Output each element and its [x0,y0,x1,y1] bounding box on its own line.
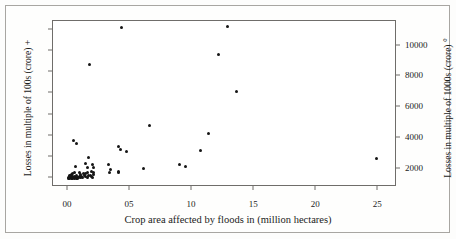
y-axis-right-tick-mark [396,167,400,168]
scatter-point [87,156,90,159]
scatter-point [78,171,81,174]
scatter-point [75,142,78,145]
y-axis-right-tick-label: 6000 [405,102,423,111]
scatter-point [199,149,202,152]
plot-area [52,20,396,186]
scatter-point [76,177,79,180]
x-axis-tick-mark [377,186,378,190]
scatter-point [74,165,77,168]
scatter-point [91,176,94,179]
y-axis-right-tick-label: 2000 [405,163,423,172]
scatter-point [142,167,145,170]
scatter-point [107,163,110,166]
scatter-point [178,163,181,166]
y-axis-left-title: Losses in multiple of 100s (crore) + [23,18,33,198]
x-axis-tick-mark [191,186,192,190]
scatter-point [148,124,151,127]
scatter-point [235,90,238,93]
scatter-point [88,63,91,66]
x-axis-tick-label: 15 [249,200,258,209]
x-axis-tick-mark [315,186,316,190]
scatter-point [119,148,122,151]
y-axis-right-tick-mark [396,106,400,107]
x-axis-tick-mark [66,186,67,190]
x-axis-tick-label: 25 [373,200,382,209]
figure-container: 0100200300400500600700 Losses in multipl… [0,0,456,239]
y-axis-right-tick-label: 10000 [405,40,428,49]
scatter-point [375,157,378,160]
scatter-point [117,171,120,174]
scatter-point [217,53,220,56]
scatter-point [92,166,95,169]
x-axis-tick-mark [253,186,254,190]
x-axis-tick-label: 00 [62,200,71,209]
x-axis-tick-label: 10 [187,200,196,209]
x-axis-title: Crop area affected by floods in (million… [0,214,456,225]
x-axis: Crop area affected by floods in (million… [0,186,456,239]
scatter-point [120,26,123,29]
scatter-point [92,173,95,176]
x-axis-tick-mark [129,186,130,190]
y-axis-right-title: Losses in multiple of 1000s (crore) ° [443,18,453,198]
y-axis-right-tick-mark [396,44,400,45]
scatter-point [72,139,75,142]
scatter-point [86,166,89,169]
scatter-points-layer [53,21,395,185]
scatter-point [84,162,87,165]
y-axis-right-tick-label: 4000 [405,132,423,141]
x-axis-tick-label: 20 [311,200,320,209]
y-axis-right-tick-mark [396,136,400,137]
scatter-point [207,132,210,135]
scatter-point [226,25,229,28]
scatter-point [108,171,111,174]
y-axis-right-tick-label: 8000 [405,71,423,80]
scatter-point [125,150,128,153]
y-axis-right-tick-mark [396,75,400,76]
scatter-point [184,165,187,168]
x-axis-tick-label: 05 [125,200,134,209]
